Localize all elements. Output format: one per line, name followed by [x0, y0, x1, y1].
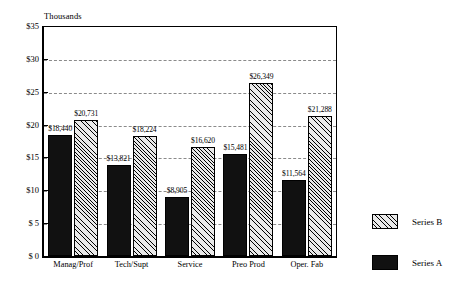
bar-series-a: [282, 180, 306, 256]
bar-series-b: [191, 147, 215, 256]
bar-value-label: $26,349: [249, 72, 273, 81]
bar-group: $13,821$18,224: [102, 26, 160, 256]
legend-label-series-a: Series A: [412, 258, 442, 268]
x-axis-category-labels: Manag/ProfTech/SuptServicePreo ProdOper.…: [44, 260, 336, 276]
bar-series-b: [308, 116, 332, 256]
legend-item-series-b: Series B: [372, 214, 442, 229]
bar-value-label: $18,440: [48, 124, 72, 133]
bar-value-label: $15,481: [223, 143, 247, 152]
bar-series-b: [133, 136, 157, 256]
bar-value-label: $13,821: [107, 154, 131, 163]
bar-value-label: $8,905: [167, 186, 187, 195]
y-tick-mark: [42, 125, 48, 126]
bar-value-label: $18,224: [133, 125, 157, 134]
bar-value-label: $16,620: [191, 136, 215, 145]
bar-series-a: [223, 154, 247, 256]
bar-group: $8,905$16,620: [161, 26, 219, 256]
bar-series-b: [249, 83, 273, 256]
x-category-label: Manag/Prof: [53, 260, 93, 269]
y-tick-mark: [42, 157, 48, 158]
bar-series-a: [107, 165, 131, 256]
y-tick-label: $30: [26, 54, 39, 64]
y-tick-mark: [42, 92, 48, 93]
y-tick-label: $25: [26, 87, 39, 97]
legend-swatch-series-a: [372, 255, 398, 270]
y-tick-label: $15: [26, 152, 39, 162]
legend-label-series-b: Series B: [412, 217, 442, 227]
x-category-label: Preo Prod: [232, 260, 265, 269]
bar-series-a: [48, 135, 72, 256]
bar-series-b: [74, 120, 98, 256]
bar-series-a: [165, 197, 189, 256]
bar-value-label: $21,288: [308, 105, 332, 114]
bars-layer: $18,440$20,731$13,821$18,224$8,905$16,62…: [44, 26, 336, 256]
bar-value-label: $11,564: [282, 169, 306, 178]
y-tick-mark: [42, 190, 48, 191]
y-axis-tick-labels: $ 0$ 5$10$15$20$25$30$35: [0, 26, 39, 258]
bar-group: $11,564$21,288: [278, 26, 336, 256]
y-tick-label: $10: [26, 185, 39, 195]
y-tick-mark: [42, 59, 48, 60]
y-tick-label: $ 5: [28, 218, 39, 228]
y-tick-label: $ 0: [28, 251, 39, 261]
bar-value-label: $20,731: [74, 109, 98, 118]
legend-item-series-a: Series A: [372, 255, 442, 270]
x-category-label: Oper. Fab: [290, 260, 323, 269]
y-tick-label: $35: [26, 21, 39, 31]
y-tick-label: $20: [26, 120, 39, 130]
y-tick-mark: [42, 223, 48, 224]
x-category-label: Tech/Supt: [115, 260, 149, 269]
bar-group: $15,481$26,349: [219, 26, 277, 256]
axis-units-note: Thousands: [44, 11, 82, 21]
bar-group: $18,440$20,731: [44, 26, 102, 256]
legend-swatch-series-b: [372, 214, 398, 229]
bar-chart: Thousands $ 0$ 5$10$15$20$25$30$35 $18,4…: [0, 0, 459, 297]
x-category-label: Service: [178, 260, 203, 269]
